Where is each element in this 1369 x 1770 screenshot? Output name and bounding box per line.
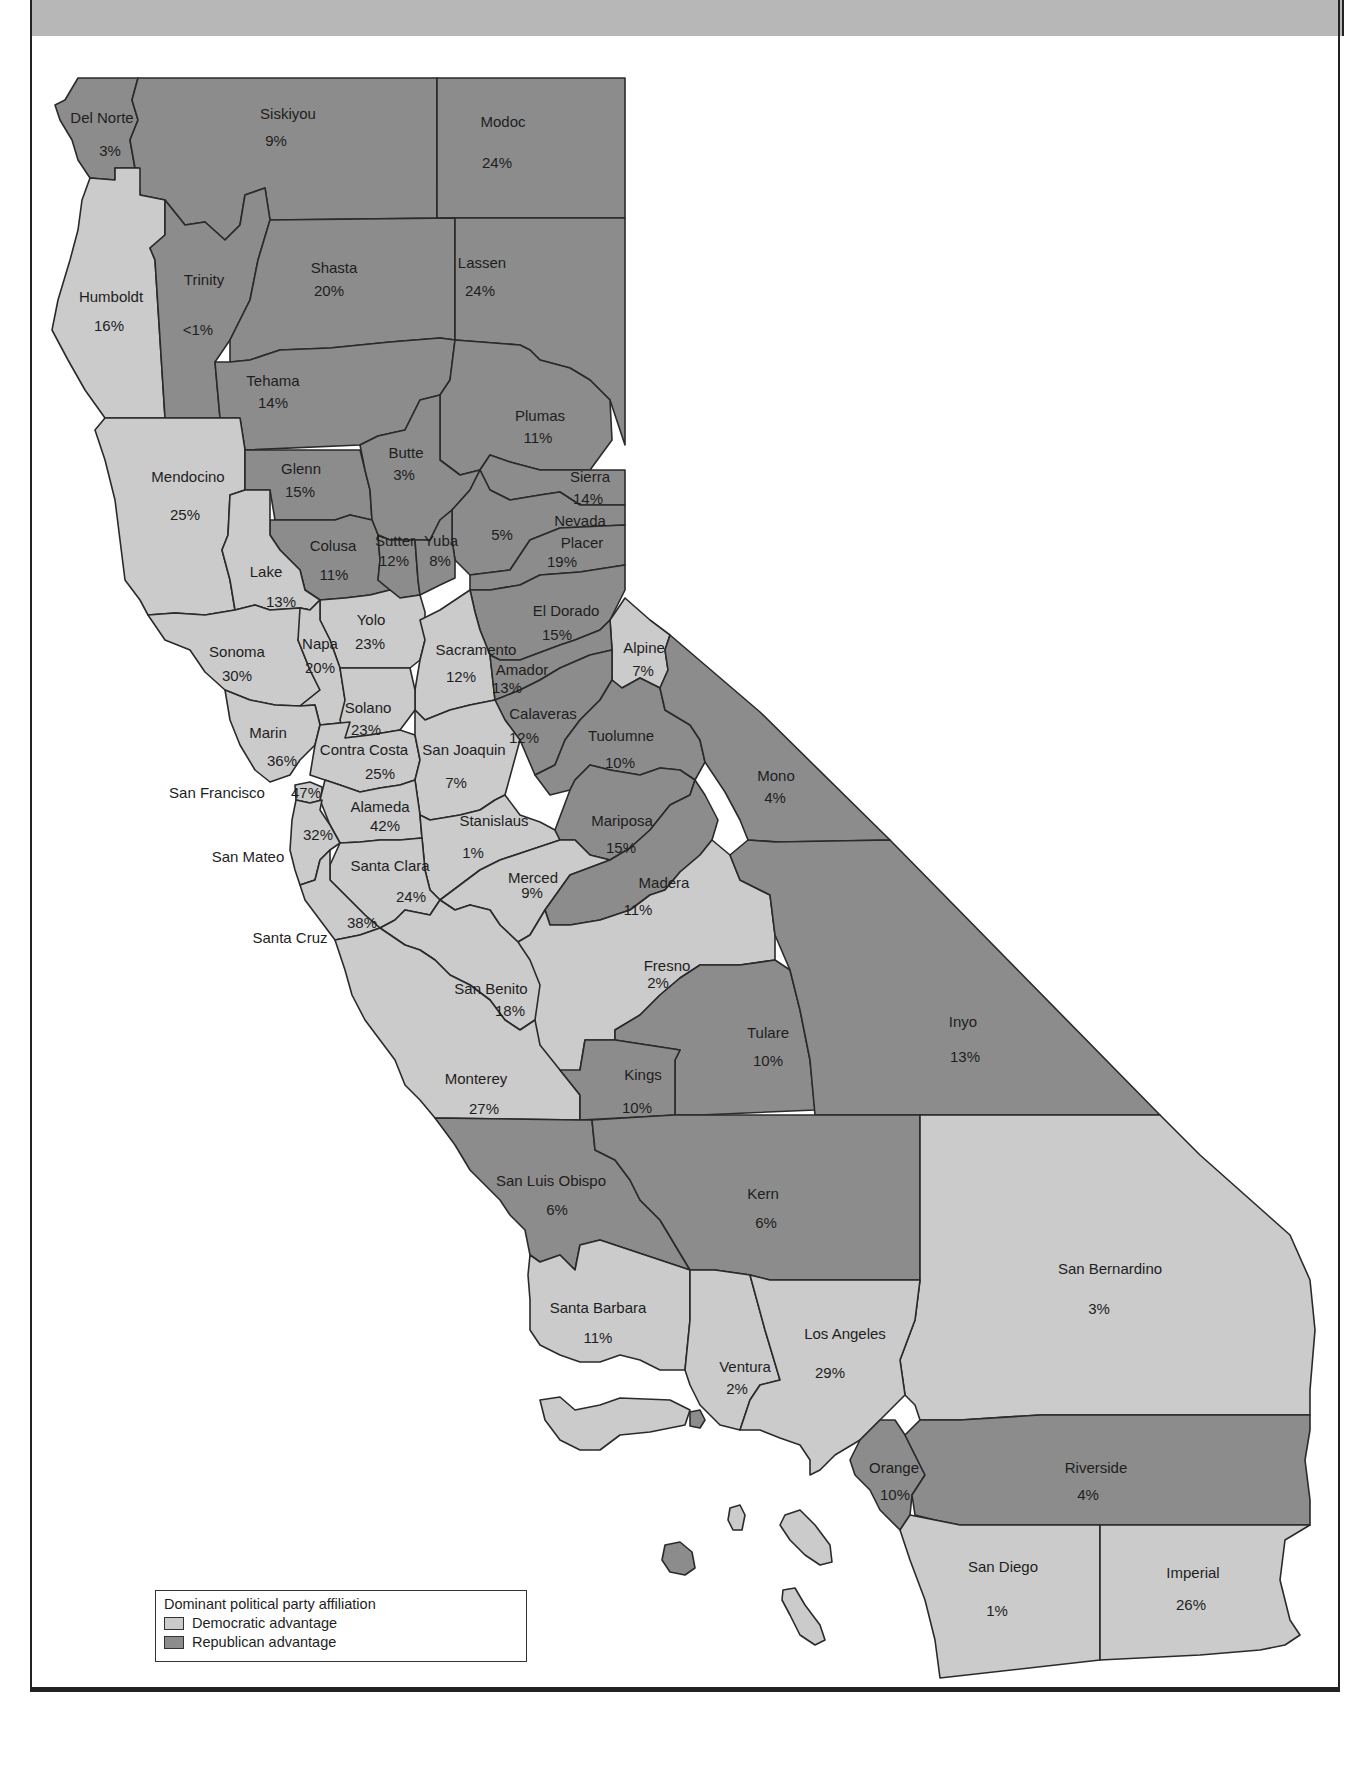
- value-san-joaquin: 7%: [445, 774, 467, 791]
- county-del-norte[interactable]: [55, 78, 138, 180]
- value-lassen: 24%: [465, 282, 495, 299]
- value-inyo: 13%: [950, 1048, 980, 1065]
- label-sacramento: Sacramento: [436, 641, 517, 658]
- island-santa-catalina[interactable]: [780, 1510, 832, 1565]
- value-placer: 19%: [547, 553, 577, 570]
- label-santa-clara: Santa Clara: [350, 857, 430, 874]
- label-imperial: Imperial: [1166, 1564, 1219, 1581]
- label-kern: Kern: [747, 1185, 779, 1202]
- label-madera: Madera: [639, 874, 691, 891]
- value-santa-clara: 24%: [396, 888, 426, 905]
- label-butte: Butte: [388, 444, 423, 461]
- label-orange: Orange: [869, 1459, 919, 1476]
- value-el-dorado: 15%: [542, 626, 572, 643]
- label-yuba: Yuba: [424, 532, 459, 549]
- legend-item-republican: Republican advantage: [164, 1633, 518, 1652]
- county-modoc[interactable]: [437, 78, 625, 218]
- island-santa-barbara[interactable]: [728, 1505, 745, 1530]
- value-orange: 10%: [880, 1486, 910, 1503]
- value-butte: 3%: [393, 466, 415, 483]
- label-san-luis-obispo: San Luis Obispo: [496, 1172, 606, 1189]
- value-imperial: 26%: [1176, 1596, 1206, 1613]
- value-nevada: 5%: [491, 526, 513, 543]
- value-kern: 6%: [755, 1214, 777, 1231]
- value-modoc: 24%: [482, 154, 512, 171]
- label-san-diego: San Diego: [968, 1558, 1038, 1575]
- legend-item-democratic: Democratic advantage: [164, 1614, 518, 1633]
- island-anacapa[interactable]: [690, 1410, 705, 1428]
- label-sonoma: Sonoma: [209, 643, 266, 660]
- value-madera: 11%: [624, 901, 653, 918]
- value-del-norte: 3%: [99, 142, 121, 159]
- value-colusa: 11%: [320, 566, 349, 583]
- value-calaveras: 12%: [509, 729, 539, 746]
- label-sutter: Sutter: [375, 532, 415, 549]
- value-napa: 20%: [305, 659, 335, 676]
- label-kings: Kings: [624, 1066, 662, 1083]
- label-monterey: Monterey: [445, 1070, 508, 1087]
- label-ventura: Ventura: [719, 1358, 771, 1375]
- label-san-mateo: San Mateo: [212, 848, 285, 865]
- value-yolo: 23%: [355, 635, 385, 652]
- value-marin: 36%: [267, 752, 297, 769]
- value-ventura: 2%: [726, 1380, 748, 1397]
- label-san-francisco: San Francisco: [169, 784, 265, 801]
- label-plumas: Plumas: [515, 407, 565, 424]
- value-sutter: 12%: [379, 552, 409, 569]
- value-shasta: 20%: [314, 282, 344, 299]
- label-santa-barbara: Santa Barbara: [550, 1299, 647, 1316]
- label-santa-cruz: Santa Cruz: [252, 929, 327, 946]
- value-san-francisco: 47%: [291, 784, 321, 801]
- island-san-nicolas[interactable]: [662, 1542, 695, 1575]
- label-fresno: Fresno: [644, 957, 691, 974]
- value-humboldt: 16%: [94, 317, 124, 334]
- label-napa: Napa: [302, 635, 339, 652]
- label-lassen: Lassen: [458, 254, 506, 271]
- value-mono: 4%: [764, 789, 786, 806]
- value-glenn: 15%: [285, 483, 315, 500]
- value-riverside: 4%: [1077, 1486, 1099, 1503]
- label-mono: Mono: [757, 767, 795, 784]
- label-glenn: Glenn: [281, 460, 321, 477]
- value-tehama: 14%: [258, 394, 288, 411]
- label-el-dorado: El Dorado: [533, 602, 600, 619]
- value-amador: 13%: [492, 679, 522, 696]
- label-stanislaus: Stanislaus: [459, 812, 528, 829]
- value-mariposa: 15%: [606, 839, 636, 856]
- county-san-diego[interactable]: [900, 1515, 1100, 1678]
- label-humboldt: Humboldt: [79, 288, 144, 305]
- label-tehama: Tehama: [246, 372, 300, 389]
- label-mendocino: Mendocino: [151, 468, 224, 485]
- label-mariposa: Mariposa: [591, 812, 653, 829]
- label-alpine: Alpine: [623, 639, 665, 656]
- california-county-map: Del Norte 3% Siskiyou 9% Modoc 24% Humbo…: [0, 0, 1369, 1770]
- value-mendocino: 25%: [170, 506, 200, 523]
- island-santa-cruz[interactable]: [540, 1397, 690, 1450]
- republican-swatch-icon: [164, 1636, 184, 1649]
- value-solano: 23%: [351, 721, 381, 738]
- value-contra-costa: 25%: [365, 765, 395, 782]
- label-colusa: Colusa: [310, 537, 357, 554]
- value-alameda: 42%: [370, 817, 400, 834]
- label-del-norte: Del Norte: [70, 109, 133, 126]
- value-santa-cruz: 38%: [347, 914, 377, 931]
- legend-title: Dominant political party affiliation: [164, 1595, 518, 1614]
- value-trinity: <1%: [183, 321, 213, 338]
- label-solano: Solano: [345, 699, 392, 716]
- label-modoc: Modoc: [480, 113, 526, 130]
- label-siskiyou: Siskiyou: [260, 105, 316, 122]
- county-imperial[interactable]: [1100, 1525, 1310, 1660]
- label-riverside: Riverside: [1065, 1459, 1128, 1476]
- value-sonoma: 30%: [222, 667, 252, 684]
- island-san-clemente[interactable]: [782, 1588, 825, 1645]
- value-sierra: 14%: [573, 490, 603, 507]
- label-inyo: Inyo: [949, 1013, 977, 1030]
- value-los-angeles: 29%: [815, 1364, 845, 1381]
- value-alpine: 7%: [632, 662, 654, 679]
- value-kings: 10%: [622, 1099, 652, 1116]
- legend: Dominant political party affiliation Dem…: [155, 1590, 527, 1662]
- value-yuba: 8%: [429, 552, 451, 569]
- value-tuolumne: 10%: [605, 754, 635, 771]
- value-plumas: 11%: [524, 429, 553, 446]
- legend-label-republican: Republican advantage: [192, 1633, 336, 1652]
